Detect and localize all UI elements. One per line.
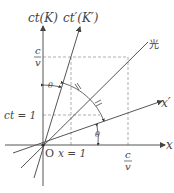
axes: [5, 26, 165, 186]
c-over-v-ct-denominator: v: [35, 57, 41, 68]
c-over-v-ct-label: c v: [34, 45, 41, 68]
theta-label-bottom: θ: [95, 130, 100, 139]
theta-label-top: θ: [48, 81, 53, 90]
ct-one-label: ct = 1: [4, 109, 36, 121]
c-over-v-x-numerator: c: [125, 149, 131, 160]
origin-label: O: [45, 147, 54, 160]
ct-prime-axis-label: ct′(K′): [63, 11, 99, 25]
equal-tick-2: [95, 100, 101, 103]
x-prime-axis-label: x′: [161, 96, 171, 110]
ct-axis-label: ct(K): [28, 11, 58, 25]
c-over-v-x-label: c v: [124, 149, 132, 172]
spacetime-diagram: ct(K) ct′(K′) x x′ 光 O ct = 1 x = 1 c v …: [0, 0, 174, 193]
c-over-v-ct-numerator: c: [35, 45, 41, 56]
x-axis-label: x: [166, 138, 173, 152]
c-over-v-x-denominator: v: [125, 161, 131, 172]
x-one-label: x = 1: [58, 147, 86, 159]
equal-tick-2b: [96, 103, 102, 106]
dashed-guides: [43, 57, 128, 145]
light-label: 光: [149, 38, 159, 50]
